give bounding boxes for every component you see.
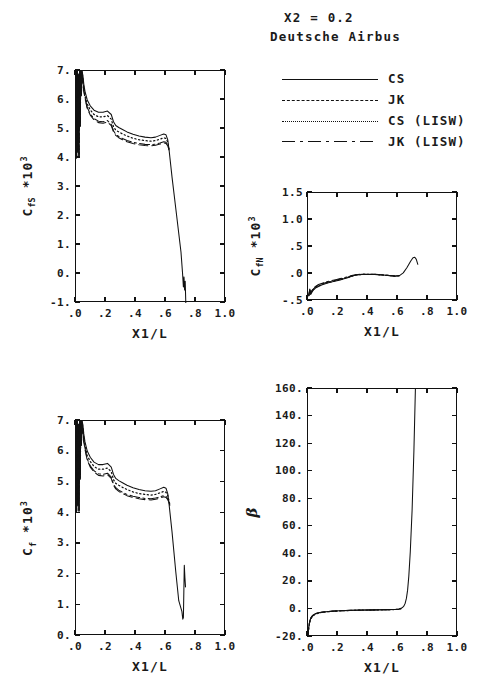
plot-panel-beta: 160.140.120.100.80.60.40.20.0.-20..0.2.4… (0, 0, 494, 697)
y-tick-beta (452, 498, 457, 499)
y-tick-beta (452, 470, 457, 471)
y-tick-beta (452, 415, 457, 416)
y-tick-label-beta: 120. (265, 438, 303, 449)
y-tick-beta (452, 525, 457, 526)
y-tick-label-beta: 60. (265, 520, 303, 531)
y-tick-beta (307, 443, 312, 444)
y-axis-title-beta: β (243, 388, 261, 636)
x-tick-beta (306, 631, 307, 636)
x-tick-label-beta: .4 (352, 642, 382, 653)
y-tick-beta (307, 553, 312, 554)
x-tick-beta (456, 388, 457, 393)
plot-frame-beta (307, 388, 457, 636)
y-tick-beta (307, 635, 312, 636)
x-tick-beta (366, 388, 367, 393)
y-tick-label-beta: 100. (265, 465, 303, 476)
y-tick-label-beta: 20. (265, 575, 303, 586)
x-tick-beta (306, 388, 307, 393)
x-tick-beta (426, 631, 427, 636)
x-tick-beta (396, 631, 397, 636)
series-beta-cs (308, 389, 415, 637)
y-tick-beta (452, 443, 457, 444)
y-tick-beta (307, 470, 312, 471)
x-axis-title-beta: X1/L (307, 660, 457, 675)
y-tick-beta (452, 608, 457, 609)
y-tick-beta (452, 580, 457, 581)
y-tick-label-beta: 140. (265, 410, 303, 421)
y-tick-beta (307, 525, 312, 526)
x-tick-beta (366, 631, 367, 636)
x-tick-beta (456, 631, 457, 636)
x-tick-label-beta: .6 (382, 642, 412, 653)
y-tick-beta (307, 498, 312, 499)
x-tick-label-beta: .2 (322, 642, 352, 653)
curves-beta (308, 389, 458, 637)
x-tick-label-beta: .0 (292, 642, 322, 653)
y-tick-label-beta: -20. (265, 631, 303, 642)
page-bottom-sliver (0, 692, 494, 697)
x-tick-label-beta: .8 (412, 642, 442, 653)
y-tick-beta (452, 553, 457, 554)
x-tick-beta (336, 631, 337, 636)
figure-canvas: X2 = 0.2 Deutsche Airbus CSJKCS (LISW)JK… (0, 0, 494, 697)
y-tick-label-beta: 0. (265, 603, 303, 614)
x-tick-label-beta: 1.0 (442, 642, 472, 653)
y-tick-beta (307, 387, 312, 388)
x-tick-beta (396, 388, 397, 393)
y-tick-label-beta: 40. (265, 548, 303, 559)
y-tick-beta (307, 580, 312, 581)
y-tick-label-beta: 160. (265, 383, 303, 394)
x-tick-beta (426, 388, 427, 393)
y-tick-beta (307, 608, 312, 609)
y-tick-label-beta: 80. (265, 493, 303, 504)
series-beta-cs-lisw (308, 609, 401, 637)
x-tick-beta (336, 388, 337, 393)
y-tick-beta (307, 415, 312, 416)
